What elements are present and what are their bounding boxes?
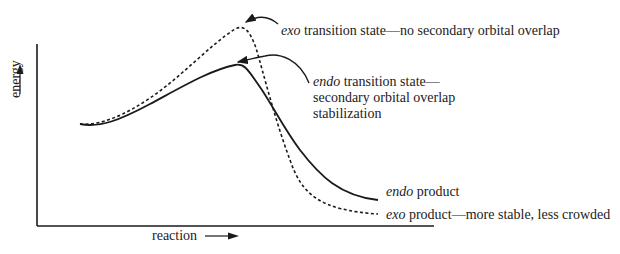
exo-product-italic: exo (386, 207, 405, 222)
endo-ts-italic: endo (313, 74, 340, 89)
exo-ts-pointer-arrow-icon (246, 17, 278, 24)
endo-ts-pointer-arrow-icon (238, 55, 309, 83)
exo-ts-italic: exo (281, 23, 300, 38)
endo-ts-text-1: transition state— (340, 74, 440, 89)
exo-product-text: product—more stable, less crowded (405, 207, 610, 222)
exo-product-annotation: exo product—more stable, less crowded (386, 207, 610, 223)
y-axis-label: energy (8, 60, 24, 98)
endo-product-text: product (413, 184, 459, 199)
endo-ts-annotation-line2: secondary orbital overlap (313, 90, 455, 106)
exo-ts-annotation: exo transition state—no secondary orbita… (281, 23, 560, 39)
exo-ts-text: transition state—no secondary orbital ov… (300, 23, 559, 38)
endo-product-italic: endo (386, 184, 413, 199)
x-axis-label: reaction (152, 228, 197, 244)
endo-ts-annotation-line1: endo transition state— (313, 74, 440, 90)
endo-product-annotation: endo product (386, 184, 459, 200)
endo-ts-annotation-line3: stabilization (313, 106, 381, 122)
reaction-arrow-icon (205, 233, 239, 240)
